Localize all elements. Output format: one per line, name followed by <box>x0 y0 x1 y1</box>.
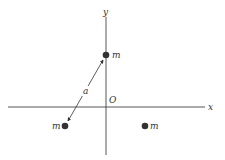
x-axis-label: x <box>208 102 213 112</box>
mass-top <box>103 52 110 59</box>
mass-bottom-left <box>62 123 69 130</box>
y-axis-label: y <box>102 7 109 17</box>
mass-bottom-right-label: m <box>150 121 159 131</box>
diagram-canvas: x y O a m m m <box>0 0 225 160</box>
distance-label: a <box>83 86 88 96</box>
origin-label: O <box>109 95 117 105</box>
mass-top-label: m <box>112 50 121 60</box>
mass-bottom-left-label: m <box>52 121 61 131</box>
mass-bottom-right <box>142 123 149 130</box>
